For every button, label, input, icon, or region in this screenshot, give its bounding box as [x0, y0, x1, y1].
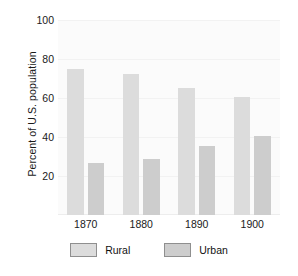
bar-rural-1900 — [234, 97, 251, 215]
bar-urban-1870 — [88, 163, 105, 215]
bar-rural-1880 — [123, 74, 140, 215]
bar-rural-1870 — [67, 69, 84, 215]
plot-area — [58, 20, 280, 215]
x-tick-label-1870: 1870 — [74, 218, 97, 230]
bar-urban-1900 — [254, 136, 271, 215]
gridline-80 — [58, 59, 280, 60]
x-tick-label-1880: 1880 — [130, 218, 153, 230]
x-tick-label-1890: 1890 — [185, 218, 208, 230]
gridline-100 — [58, 20, 280, 21]
y-tick-label-100: 100 — [14, 14, 54, 26]
bar-urban-1890 — [199, 146, 216, 215]
y-axis-title: Percent of U.S. population — [26, 34, 38, 194]
x-tick-label-1900: 1900 — [241, 218, 264, 230]
legend-label-urban: Urban — [199, 244, 228, 256]
bar-urban-1880 — [143, 159, 160, 215]
plot-inner — [58, 20, 280, 215]
legend-swatch-rural-icon — [70, 243, 97, 257]
legend-item-urban[interactable]: Urban — [164, 243, 228, 257]
bar-rural-1890 — [178, 88, 195, 215]
bar-chart: Percent of U.S. population 100 80 60 40 … — [0, 0, 298, 276]
legend: Rural Urban — [0, 243, 298, 257]
legend-swatch-urban-icon — [164, 243, 191, 257]
legend-label-rural: Rural — [105, 244, 130, 256]
legend-item-rural[interactable]: Rural — [70, 243, 130, 257]
